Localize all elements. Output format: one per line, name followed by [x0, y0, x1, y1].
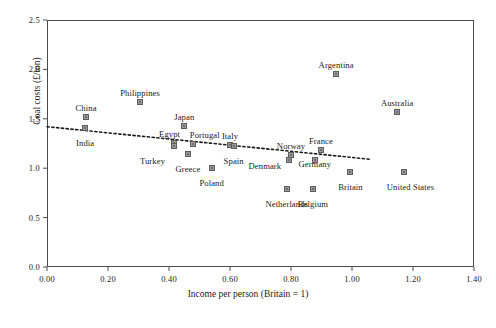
y-tick-label: 0.5: [8, 213, 40, 223]
y-axis-title-wrap: Coal costs (£/ton): [26, 11, 40, 171]
x-tick-label: 0.40: [161, 274, 177, 284]
x-tick-label: 0.00: [39, 274, 55, 284]
data-point-marker[interactable]: [347, 169, 353, 175]
data-point-marker[interactable]: [181, 123, 187, 129]
data-point-label: Egypt: [159, 129, 180, 139]
x-tick-label: 1.00: [344, 274, 360, 284]
x-tick-label: 0.80: [283, 274, 299, 284]
data-point-marker[interactable]: [209, 165, 215, 171]
x-tick-label: 0.60: [222, 274, 238, 284]
data-point-label: Britain: [338, 182, 363, 192]
y-axis-title: Coal costs (£/ton): [32, 57, 42, 125]
x-tick-label: 1.20: [405, 274, 421, 284]
data-point-label: United States: [387, 182, 434, 192]
data-point-marker[interactable]: [394, 109, 400, 115]
data-point-marker[interactable]: [318, 147, 324, 153]
x-tick-label: 0.20: [100, 274, 116, 284]
plot-area: [47, 20, 474, 267]
data-point-label: Australia: [381, 98, 413, 108]
x-tick-label: 1.40: [466, 274, 482, 284]
data-point-label: Greece: [175, 164, 200, 174]
data-point-label: Poland: [199, 178, 223, 188]
data-point-marker[interactable]: [190, 141, 196, 147]
data-point-label: Philippines: [120, 88, 160, 98]
data-point-marker[interactable]: [185, 151, 191, 157]
data-point-label: Argentina: [319, 60, 354, 70]
data-point-marker[interactable]: [231, 143, 237, 149]
data-point-marker[interactable]: [83, 114, 89, 120]
y-tick-label: 0.0: [8, 262, 40, 272]
data-point-label: Japan: [174, 112, 194, 122]
data-point-marker[interactable]: [137, 99, 143, 105]
data-point-label: Spain: [224, 156, 244, 166]
data-point-label: Denmark: [249, 161, 282, 171]
data-point-marker[interactable]: [286, 157, 292, 163]
data-point-label: France: [309, 136, 333, 146]
data-point-marker[interactable]: [333, 71, 339, 77]
data-point-marker[interactable]: [401, 169, 407, 175]
data-point-label: Germany: [298, 159, 331, 169]
data-point-label: Italy: [222, 131, 238, 141]
data-point-marker[interactable]: [82, 125, 88, 131]
chart-figure: 0.00.51.01.52.02.50.000.200.400.600.801.…: [0, 0, 496, 328]
data-point-label: Norway: [277, 141, 305, 151]
data-point-marker[interactable]: [171, 143, 177, 149]
x-axis-title: Income per person (Britain = 1): [0, 289, 496, 299]
data-point-label: Turkey: [140, 156, 165, 166]
data-point-label: China: [76, 103, 97, 113]
data-point-marker[interactable]: [284, 186, 290, 192]
data-point-label: Belgium: [298, 199, 328, 209]
data-point-marker[interactable]: [310, 186, 316, 192]
data-point-label: Portugal: [190, 130, 220, 140]
data-point-label: India: [76, 138, 94, 148]
